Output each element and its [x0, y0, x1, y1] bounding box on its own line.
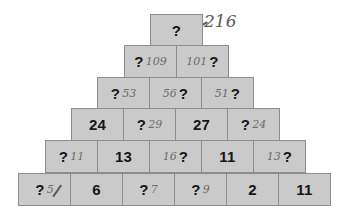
- pencil-note: 13: [267, 151, 281, 162]
- pencil-note: 7: [151, 184, 158, 195]
- pyramid-cell[interactable]: 101 ?: [176, 45, 229, 78]
- cell-value: ?: [111, 85, 120, 102]
- cell-value: 2: [248, 181, 257, 198]
- pyramid-cell[interactable]: 2: [226, 173, 279, 206]
- cell-value: ?: [191, 181, 200, 198]
- pencil-note: 101: [186, 56, 207, 67]
- pyramid-cell[interactable]: 16 ?: [149, 140, 202, 173]
- pyramid-cell[interactable]: 13 ?: [253, 140, 306, 173]
- pyramid-row-6: ? 5 6 ? 7 ? 9 2 11: [18, 173, 331, 206]
- pyramid-cell[interactable]: 27: [175, 108, 228, 141]
- pencil-note: 51: [215, 88, 229, 99]
- cell-value: 27: [193, 116, 210, 133]
- pyramid-cell[interactable]: 11: [201, 140, 254, 173]
- pencil-note: 24: [252, 119, 266, 130]
- cell-value: ?: [35, 181, 44, 198]
- pyramid-cell[interactable]: ? 5: [18, 173, 71, 206]
- pyramid-row-3: ? 53 56 ? 51 ?: [97, 77, 254, 110]
- pyramid-cell[interactable]: ? 24: [227, 108, 280, 141]
- pyramid-cell[interactable]: 11: [278, 173, 331, 206]
- pyramid-row-1: ?: [150, 14, 203, 47]
- cell-value: ?: [283, 148, 292, 165]
- pencil-note: 56: [163, 88, 177, 99]
- cell-value: 6: [92, 181, 101, 198]
- cell-value: ?: [134, 53, 143, 70]
- cell-value: ?: [137, 116, 146, 133]
- pencil-note: 109: [146, 56, 167, 67]
- pyramid-cell[interactable]: ? 9: [174, 173, 227, 206]
- pyramid-cell[interactable]: ? 11: [45, 140, 98, 173]
- number-pyramid: 216 ? ? 109 101 ? ? 53 56 ? 51 ?: [0, 0, 354, 213]
- pyramid-cell[interactable]: ? 109: [124, 45, 177, 78]
- pencil-note: 9: [203, 184, 210, 195]
- strike-mark: [52, 185, 61, 197]
- cell-value: 13: [115, 148, 132, 165]
- cell-value: ?: [59, 148, 68, 165]
- pyramid-cell[interactable]: ? 53: [97, 77, 150, 110]
- cell-value: 11: [219, 148, 235, 165]
- pyramid-row-5: ? 11 13 16 ? 11 13 ?: [45, 140, 306, 173]
- pyramid-cell[interactable]: ? 29: [123, 108, 176, 141]
- cell-value: ?: [209, 53, 218, 70]
- pencil-note: 11: [70, 151, 84, 162]
- pyramid-cell[interactable]: ? 7: [122, 173, 175, 206]
- pyramid-row-4: 24 ? 29 27 ? 24: [71, 108, 280, 141]
- cell-value: ?: [139, 181, 148, 198]
- pyramid-cell[interactable]: ?: [150, 14, 203, 47]
- pyramid-cell[interactable]: 24: [71, 108, 124, 141]
- pyramid-cell[interactable]: 13: [97, 140, 150, 173]
- pyramid-cell[interactable]: 6: [70, 173, 123, 206]
- cell-value: ?: [172, 22, 181, 39]
- cell-value: ?: [241, 116, 250, 133]
- pyramid-cell[interactable]: 56 ?: [149, 77, 202, 110]
- cell-value: ?: [179, 148, 188, 165]
- pyramid-cell[interactable]: 51 ?: [201, 77, 254, 110]
- pencil-note: 53: [122, 88, 136, 99]
- pyramid-row-2: ? 109 101 ?: [124, 45, 229, 78]
- cell-value: ?: [231, 85, 240, 102]
- cell-value: 24: [89, 116, 106, 133]
- top-annotation: 216: [204, 11, 236, 31]
- cell-value: 11: [296, 181, 312, 198]
- pencil-note: 29: [148, 119, 162, 130]
- cell-value: ?: [179, 85, 188, 102]
- pencil-note: 16: [163, 151, 177, 162]
